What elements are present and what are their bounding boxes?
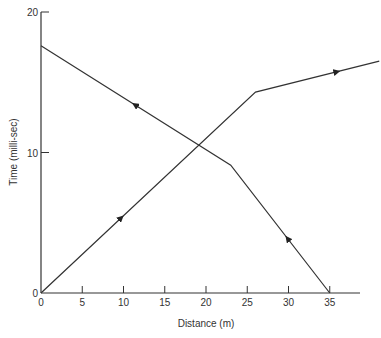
x-tick-label: 25 [242,297,254,308]
y-tick-label: 10 [27,148,39,159]
y-axis-label: Time (milli-sec) [8,118,19,185]
direction-arrow-icon [118,218,121,221]
series [41,46,379,293]
series-line-reverse [41,46,330,293]
x-tick-label: 15 [159,297,171,308]
travel-time-chart: 0510152025303501020 Distance (m) Time (m… [0,0,381,338]
direction-arrow-icon [333,72,337,73]
x-tick-label: 10 [118,297,130,308]
x-tick-label: 5 [79,297,85,308]
x-tick-label: 30 [283,297,295,308]
axes: 0510152025303501020 [27,7,360,308]
y-tick-label: 20 [27,7,39,18]
series-line-forward [41,61,379,293]
x-axis-label: Distance (m) [178,318,235,329]
x-tick-label: 0 [38,297,44,308]
y-tick-label: 0 [32,288,38,299]
x-tick-label: 35 [324,297,336,308]
direction-arrow-icon [135,105,138,107]
direction-arrow-icon [288,239,290,242]
x-tick-label: 20 [200,297,212,308]
